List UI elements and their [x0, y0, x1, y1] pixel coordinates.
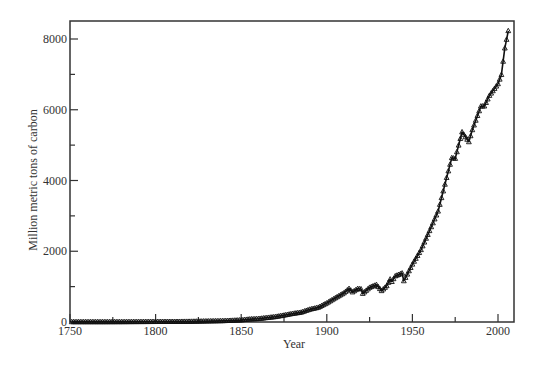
- y-axis-tick-labels: 0 2000 4000 6000 8000: [43, 32, 67, 329]
- x-tick-label: 1750: [58, 324, 82, 338]
- y-tick-label: 6000: [43, 103, 67, 117]
- y-tick-label: 4000: [43, 174, 67, 188]
- x-tick-label: 1900: [315, 324, 339, 338]
- x-axis-tick-labels: 1750 1800 1850 1900 1950 2000: [58, 324, 510, 338]
- plot-frame: [70, 21, 514, 322]
- x-tick-label: 1850: [229, 324, 253, 338]
- y-axis-title: Million metric tons of carbon: [26, 109, 40, 250]
- emissions-markers: [69, 28, 510, 323]
- x-tick-label: 2000: [486, 324, 510, 338]
- x-tick-label: 1800: [144, 324, 168, 338]
- emissions-chart: 0 2000 4000 6000 8000 1750 1800 1850 190…: [0, 0, 539, 366]
- y-axis-ticks: [70, 39, 78, 322]
- y-tick-label: 2000: [43, 244, 67, 258]
- x-tick-label: 1950: [400, 324, 424, 338]
- y-tick-label: 8000: [43, 32, 67, 46]
- emissions-line: [72, 31, 509, 322]
- x-axis-title: Year: [283, 337, 305, 351]
